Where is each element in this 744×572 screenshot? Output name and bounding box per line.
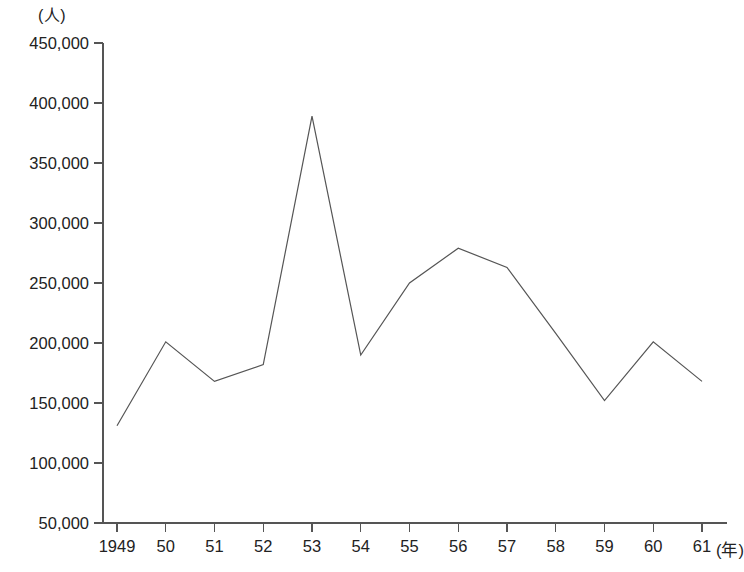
- x-axis-tick-label: 58: [547, 537, 565, 556]
- x-axis-tick-label: 52: [254, 537, 272, 556]
- x-axis-tick-label: 51: [205, 537, 223, 556]
- y-axis-tick-label: 100,000: [0, 454, 89, 473]
- x-axis-tick-label: 60: [644, 537, 662, 556]
- y-axis-tick-label: 200,000: [0, 334, 89, 353]
- x-axis-tick-label: 61: [693, 537, 711, 556]
- chart-plot-area: [0, 0, 744, 572]
- x-axis-tick-label: 55: [400, 537, 418, 556]
- x-axis-unit-label: (年): [716, 537, 744, 561]
- series-polyline: [117, 116, 702, 426]
- x-axis-tick-label: 50: [157, 537, 175, 556]
- x-axis-tick-label: 59: [595, 537, 613, 556]
- y-axis-tick-label: 350,000: [0, 154, 89, 173]
- x-axis-tick-label: 53: [303, 537, 321, 556]
- chart-axes: [94, 43, 727, 532]
- x-axis-tick-label: 56: [449, 537, 467, 556]
- y-axis-tick-label: 150,000: [0, 394, 89, 413]
- x-axis-tick-label: 54: [352, 537, 370, 556]
- y-axis-tick-label: 250,000: [0, 274, 89, 293]
- y-axis-tick-label: 300,000: [0, 214, 89, 233]
- line-chart: (人) 450,000400,000350,000300,000250,0002…: [0, 0, 744, 572]
- y-axis-tick-label: 400,000: [0, 94, 89, 113]
- y-axis-tick-label: 450,000: [0, 34, 89, 53]
- data-series-line: [117, 116, 702, 426]
- y-axis-tick-label: 50,000: [0, 514, 89, 533]
- x-axis-tick-label: 1949: [99, 537, 136, 556]
- x-axis-tick-label: 57: [498, 537, 516, 556]
